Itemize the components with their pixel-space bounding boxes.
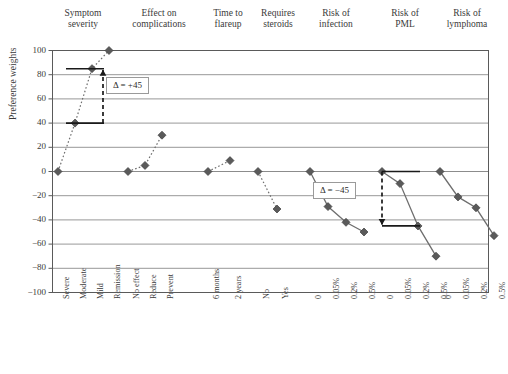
- data-point-marker: [490, 232, 498, 240]
- series-line: [310, 172, 364, 233]
- annotation-box-minus-45: Δ = −45: [313, 182, 356, 199]
- series-line: [382, 172, 436, 257]
- data-point-marker: [454, 193, 462, 201]
- series-line: [208, 161, 230, 172]
- data-point-marker: [158, 131, 166, 139]
- data-point-marker: [254, 168, 262, 176]
- series-line: [440, 172, 494, 236]
- plot-canvas: [0, 0, 508, 374]
- data-point-marker: [306, 168, 314, 176]
- data-point-marker: [124, 168, 132, 176]
- data-point-marker: [432, 252, 440, 260]
- data-point-marker: [436, 168, 444, 176]
- annotation-box-plus-45: Δ = +45: [106, 77, 149, 94]
- series-line: [258, 172, 277, 210]
- data-point-marker: [226, 157, 234, 165]
- data-point-marker: [54, 168, 62, 176]
- annotation-arrow-head: [100, 70, 107, 76]
- data-point-marker: [360, 228, 368, 236]
- data-point-marker: [141, 161, 149, 169]
- data-point-marker: [204, 168, 212, 176]
- annotation-arrow-head: [379, 219, 386, 225]
- chart-figure: Symptom severity Effect on complications…: [0, 0, 508, 374]
- data-point-marker: [396, 180, 404, 188]
- data-point-marker: [472, 204, 480, 212]
- data-point-marker: [273, 205, 281, 213]
